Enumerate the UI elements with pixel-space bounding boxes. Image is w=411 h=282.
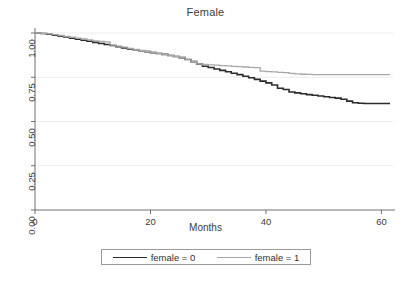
- y-tick-label: 0.25: [26, 164, 37, 198]
- figure-root: Female 0.000.250.500.751.00 0204060 Mont…: [0, 0, 411, 282]
- x-axis-label: Months: [0, 222, 411, 233]
- y-tick-label: 0.75: [26, 76, 37, 110]
- legend-label-female-1: female = 1: [255, 252, 300, 263]
- legend-item-female-0[interactable]: female = 0: [113, 252, 196, 263]
- series-line-0: [35, 33, 390, 103]
- gridlines: [35, 33, 393, 166]
- figure-caption: [8, 272, 403, 282]
- plot-area: 0.000.250.500.751.00 0204060: [0, 0, 411, 232]
- y-tick-label: 1.00: [26, 32, 37, 66]
- gray-line-swatch: [217, 257, 251, 258]
- series-line-1: [35, 33, 390, 75]
- chart-legend: female = 0 female = 1: [101, 249, 311, 265]
- y-tick-label: 0.50: [26, 120, 37, 154]
- dark-line-swatch: [113, 257, 147, 258]
- axis-lines: [35, 28, 395, 210]
- legend-label-female-0: female = 0: [151, 252, 196, 263]
- tick-marks: [31, 33, 381, 214]
- plot-svg: [0, 0, 411, 232]
- legend-item-female-1[interactable]: female = 1: [217, 252, 300, 263]
- series-layer: [35, 33, 390, 103]
